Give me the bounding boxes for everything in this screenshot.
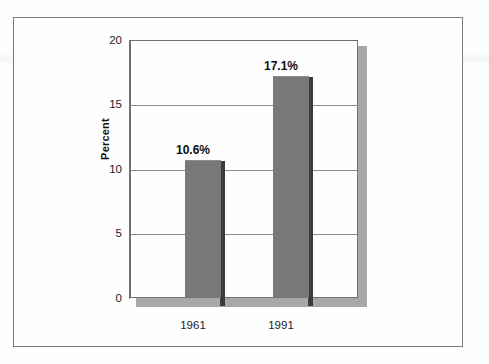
y-tick-label-20: 20 xyxy=(109,35,122,47)
y-tick-label-15: 15 xyxy=(109,99,122,111)
y-tick-label-5: 5 xyxy=(116,228,122,240)
y-tick-label-10: 10 xyxy=(109,164,122,176)
gridline-5 xyxy=(131,234,359,235)
bar-group-1991[interactable] xyxy=(273,40,313,298)
plot-area-floor-shadow xyxy=(136,298,367,307)
plot-area-right-shadow xyxy=(358,46,367,306)
y-axis-title: Percent xyxy=(99,118,111,160)
x-tick-label-1961: 1961 xyxy=(165,320,221,332)
chart-figure: 20 15 10 5 0 Percent 10.6% 17.1% 1961 19… xyxy=(0,0,489,364)
bar-1961[interactable] xyxy=(185,160,221,298)
y-tick-label-0: 0 xyxy=(116,293,122,305)
gridline-15 xyxy=(131,105,359,106)
bar-1991[interactable] xyxy=(273,76,309,298)
bar-value-label-1991: 17.1% xyxy=(243,60,319,72)
bar-value-label-1961: 10.6% xyxy=(155,144,231,156)
plot-area-wrap xyxy=(130,40,358,298)
plot-area xyxy=(130,40,358,298)
x-tick-label-1991: 1991 xyxy=(253,320,309,332)
bar-group-1961[interactable] xyxy=(185,40,225,298)
y-axis-tick-labels: 20 15 10 5 0 xyxy=(96,40,122,298)
gridline-10 xyxy=(131,170,359,171)
